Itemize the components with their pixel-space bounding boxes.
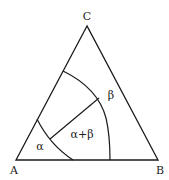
vertex-label-b: B: [156, 164, 164, 177]
ternary-diagram: C A B α α+β β: [0, 0, 169, 180]
beta-phase-boundary: [63, 71, 110, 160]
region-label-alpha: α: [36, 140, 44, 153]
region-label-beta: β: [108, 89, 114, 102]
vertex-label-a: A: [9, 164, 19, 177]
region-label-alpha-beta: α+β: [70, 128, 93, 141]
vertex-label-c: C: [83, 10, 91, 23]
